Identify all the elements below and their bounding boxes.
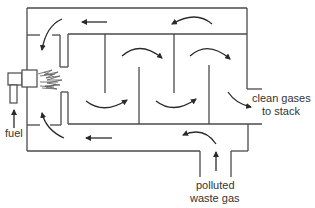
- label-fuel: fuel: [5, 127, 23, 139]
- incinerator-diagram: fuel clean gases to stack polluted waste…: [0, 0, 315, 208]
- fuel-pipe: [10, 85, 17, 103]
- flame-icon: [38, 70, 62, 89]
- burner: [8, 70, 62, 103]
- label-waste-gas: waste gas: [189, 192, 240, 204]
- arrow-bottom-right-curve: [183, 132, 216, 144]
- combustion-chamber: [27, 34, 262, 125]
- label-to-stack: to stack: [262, 105, 300, 117]
- flow-arrows: [14, 17, 251, 171]
- label-clean-gases: clean gases: [252, 92, 311, 104]
- label-polluted: polluted: [196, 179, 235, 191]
- baffles: [105, 34, 209, 124]
- arrow-top-right-curve: [172, 17, 212, 24]
